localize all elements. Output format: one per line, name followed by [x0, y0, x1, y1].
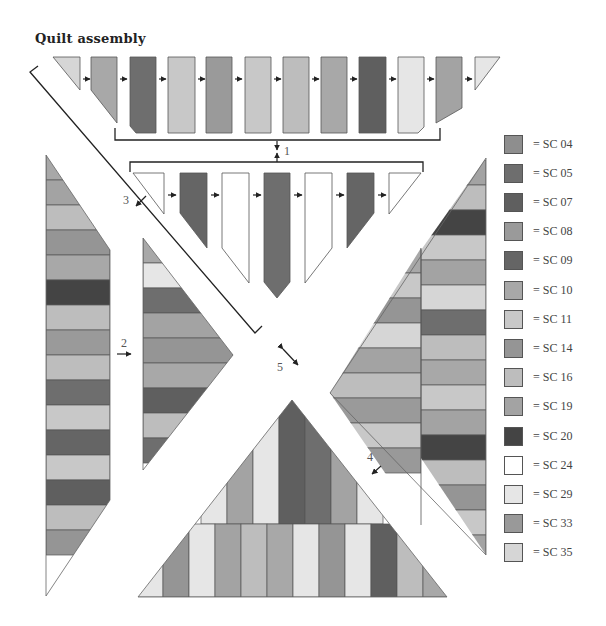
left-strip — [46, 155, 110, 555]
step-label-3: 3 — [123, 193, 129, 208]
bracket-second — [130, 162, 423, 172]
quilt-piece — [130, 57, 156, 133]
step-label-4: 4 — [367, 450, 373, 465]
legend-item: = SC 14 — [504, 337, 572, 359]
color-swatch — [504, 485, 523, 504]
color-swatch — [504, 281, 523, 300]
top-row-pieces — [53, 57, 500, 133]
quilt-piece — [389, 173, 421, 214]
legend-item: = SC 35 — [504, 542, 572, 564]
legend-item: = SC 04 — [504, 133, 572, 155]
color-swatch — [504, 456, 523, 475]
legend-item: = SC 07 — [504, 191, 572, 213]
legend-item: = SC 33 — [504, 513, 572, 535]
second-row-pieces — [133, 173, 421, 298]
quilt-piece — [180, 173, 207, 248]
color-swatch — [504, 514, 523, 533]
legend-item: = SC 24 — [504, 454, 572, 476]
right-outer-triangle — [330, 248, 421, 473]
legend-label: = SC 19 — [533, 399, 572, 414]
quilt-piece — [206, 57, 232, 133]
legend-label: = SC 11 — [533, 312, 572, 327]
color-swatch — [504, 135, 523, 154]
legend-item: = SC 29 — [504, 483, 572, 505]
color-swatch — [504, 397, 523, 416]
quilt-piece — [283, 57, 309, 133]
color-swatch — [504, 164, 523, 183]
step-label-2: 2 — [121, 336, 127, 351]
quilt-piece — [475, 57, 500, 90]
color-swatch — [504, 368, 523, 387]
legend-item: = SC 05 — [504, 162, 572, 184]
quilt-piece — [359, 57, 386, 133]
legend-label: = SC 09 — [533, 253, 572, 268]
quilt-piece — [91, 57, 117, 123]
legend-label: = SC 07 — [533, 195, 572, 210]
legend-label: = SC 08 — [533, 224, 572, 239]
quilt-piece — [398, 57, 424, 133]
bracket-top — [115, 128, 440, 140]
legend-label: = SC 29 — [533, 487, 572, 502]
legend-label: = SC 24 — [533, 458, 572, 473]
quilt-piece — [245, 57, 271, 133]
legend-label: = SC 20 — [533, 429, 572, 444]
quilt-piece — [222, 173, 249, 283]
color-swatch — [504, 310, 523, 329]
color-swatch — [504, 222, 523, 241]
legend-label: = SC 05 — [533, 166, 572, 181]
legend-item: = SC 11 — [504, 308, 572, 330]
legend-label: = SC 33 — [533, 516, 572, 531]
color-swatch — [504, 193, 523, 212]
color-swatch — [504, 427, 523, 446]
arrow-5 — [283, 349, 298, 365]
legend-item: = SC 16 — [504, 367, 572, 389]
color-swatch — [504, 339, 523, 358]
quilt-piece — [264, 173, 290, 298]
quilt-piece — [53, 57, 80, 90]
legend-label: = SC 16 — [533, 370, 572, 385]
legend-label: = SC 14 — [533, 341, 572, 356]
legend-label: = SC 04 — [533, 137, 572, 152]
legend-item: = SC 19 — [504, 396, 572, 418]
legend-item: = SC 08 — [504, 221, 572, 243]
quilt-piece — [133, 173, 164, 214]
quilt-piece — [347, 173, 374, 248]
arrow-4 — [372, 466, 381, 474]
quilt-piece — [321, 57, 347, 133]
legend-label: = SC 10 — [533, 283, 572, 298]
color-swatch — [504, 543, 523, 562]
legend-item: = SC 09 — [504, 250, 572, 272]
color-swatch — [504, 251, 523, 270]
middle-left-triangle — [143, 238, 233, 463]
step-label-1: 1 — [284, 144, 290, 159]
step-label-5: 5 — [277, 360, 283, 375]
quilt-piece — [436, 57, 462, 123]
legend-item: = SC 10 — [504, 279, 572, 301]
quilt-piece — [168, 57, 195, 133]
quilt-piece — [305, 173, 332, 283]
legend-label: = SC 35 — [533, 545, 572, 560]
legend-item: = SC 20 — [504, 425, 572, 447]
